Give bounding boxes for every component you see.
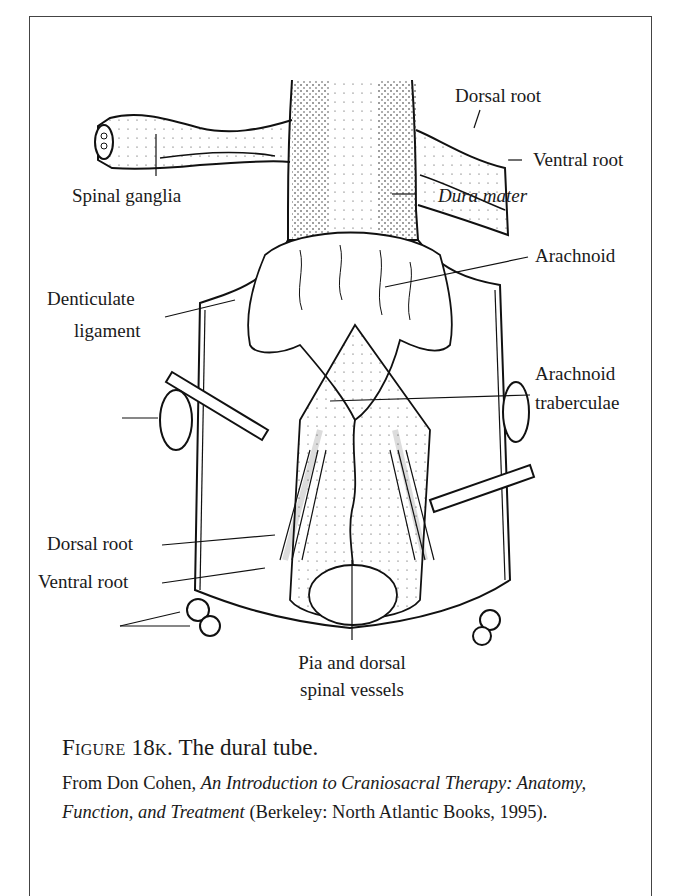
label-arachnoid: Arachnoid — [535, 246, 615, 265]
source-prefix: From Don Cohen, — [62, 773, 201, 793]
figure-caption: Figure 18k. The dural tube. From Don Coh… — [62, 735, 642, 827]
dura-trunk — [288, 80, 418, 240]
nerve-roots-top-right — [416, 130, 508, 235]
source-suffix: (Berkeley: North Atlantic Books, 1995). — [245, 802, 548, 822]
label-pia-line1: Pia and dorsal — [272, 653, 432, 672]
label-pia-line2: spinal vessels — [272, 680, 432, 699]
spinal-ganglion-left — [95, 115, 292, 169]
label-arachnoid-traberculae-line2: traberculae — [535, 393, 619, 412]
label-spinal-ganglia: Spinal ganglia — [72, 186, 181, 205]
label-arachnoid-traberculae-line1: Arachnoid — [535, 364, 615, 383]
label-denticulate-line2: ligament — [74, 321, 140, 340]
label-dorsal-root-bottom: Dorsal root — [47, 534, 133, 553]
figure-title: The dural tube. — [178, 735, 318, 760]
figure-number: Figure 18k. — [62, 735, 173, 760]
label-ventral-root-bottom: Ventral root — [38, 572, 128, 591]
label-dura-mater: Dura mater — [438, 186, 527, 205]
label-ventral-root-top: Ventral root — [533, 150, 623, 169]
caption-title: Figure 18k. The dural tube. — [62, 735, 642, 761]
label-denticulate-line1: Denticulate — [47, 289, 135, 308]
label-dorsal-root-top: Dorsal root — [455, 86, 541, 105]
caption-source: From Don Cohen, An Introduction to Crani… — [62, 769, 642, 827]
